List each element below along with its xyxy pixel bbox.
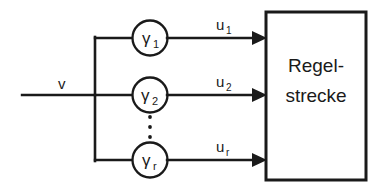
vertical-ellipsis-dot-3 bbox=[148, 135, 152, 139]
gain-gamma-2 bbox=[133, 78, 168, 113]
gain-gamma-r-subscript: r bbox=[153, 160, 157, 172]
signal-label-u-1: u bbox=[216, 16, 224, 33]
gain-gamma-1-subscript: 1 bbox=[153, 38, 159, 50]
plant-label-line2: strecke bbox=[285, 85, 346, 106]
gain-gamma-r-symbol: γ bbox=[142, 151, 151, 170]
diagram-canvas: γ 1 γ 2 γ r Regel- strecke v u 1 u 2 u r bbox=[0, 0, 378, 195]
control-block-diagram: γ 1 γ 2 γ r Regel- strecke v u 1 u 2 u r bbox=[0, 0, 378, 195]
vertical-ellipsis-dot-1 bbox=[148, 115, 152, 119]
signal-label-u-2: u bbox=[216, 73, 224, 90]
plant-label-line1: Regel- bbox=[288, 55, 344, 76]
signal-sub-u-1: 1 bbox=[226, 25, 232, 36]
gain-gamma-1-symbol: γ bbox=[142, 29, 151, 48]
signal-sub-u-2: 2 bbox=[226, 82, 232, 93]
signal-label-u-r: u bbox=[216, 138, 224, 155]
gain-gamma-2-symbol: γ bbox=[141, 86, 150, 105]
vertical-ellipsis-dot-2 bbox=[148, 125, 152, 129]
signal-sub-u-r: r bbox=[226, 147, 230, 158]
gain-gamma-2-subscript: 2 bbox=[152, 95, 158, 107]
input-label-v: v bbox=[58, 75, 66, 92]
